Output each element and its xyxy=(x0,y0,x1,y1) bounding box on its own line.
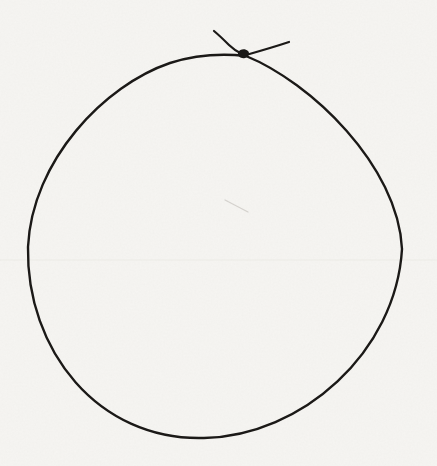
paper-texture xyxy=(0,0,437,466)
string-loop-illustration xyxy=(0,0,437,466)
sketch-canvas xyxy=(0,0,437,466)
